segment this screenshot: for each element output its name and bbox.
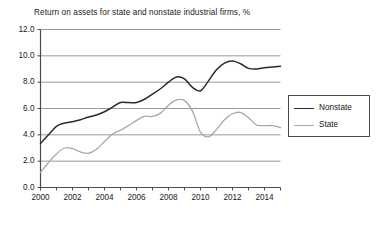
legend-entry-state: State xyxy=(294,118,338,132)
legend-swatch-nonstate xyxy=(294,108,314,109)
chart-figure: Return on assets for state and nonstate … xyxy=(0,0,378,226)
legend-label-state: State xyxy=(319,121,338,129)
legend-swatch-state xyxy=(294,125,314,126)
chart-legend: Nonstate State xyxy=(288,95,370,137)
legend-entry-nonstate: Nonstate xyxy=(294,101,352,115)
legend-label-nonstate: Nonstate xyxy=(319,104,352,112)
